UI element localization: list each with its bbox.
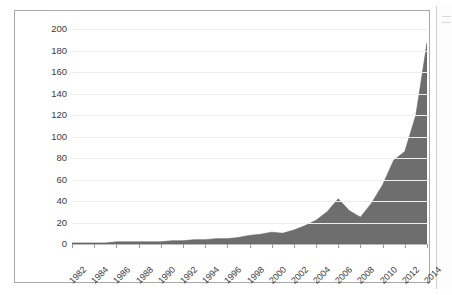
y-axis-tick-label: 140 — [27, 89, 67, 99]
x-axis-tick-mark — [294, 244, 295, 248]
x-axis-tick-label: 1990 — [156, 265, 177, 286]
x-axis-tick-label: 2008 — [356, 265, 377, 286]
x-axis-tick-label: 2012 — [401, 265, 422, 286]
x-axis-tick-mark — [405, 244, 406, 248]
chart-figure: 1982198419861988199019921994199619982000… — [0, 0, 452, 295]
y-axis-tick-label: 40 — [27, 196, 67, 206]
gridline — [72, 137, 427, 138]
y-axis-tick-label: 60 — [27, 175, 67, 185]
gridline — [72, 29, 427, 30]
gridline — [72, 158, 427, 159]
edge-text-line — [442, 16, 451, 17]
gridline — [72, 201, 427, 202]
adjacent-panel-edge — [436, 6, 452, 289]
y-axis-tick-label: 100 — [27, 132, 67, 142]
y-axis-tick-label: 180 — [27, 46, 67, 56]
x-axis: 1982198419861988199019921994199619982000… — [72, 244, 427, 294]
x-axis-tick-label: 1998 — [245, 265, 266, 286]
y-axis-tick-label: 160 — [27, 67, 67, 77]
x-axis-tick-mark — [72, 244, 73, 248]
y-axis-tick-label: 80 — [27, 153, 67, 163]
x-axis-tick-mark — [338, 244, 339, 248]
x-axis-tick-mark — [360, 244, 361, 248]
x-axis-tick-mark — [139, 244, 140, 248]
x-axis-tick-mark — [383, 244, 384, 248]
gridline — [72, 223, 427, 224]
gridline — [72, 115, 427, 116]
x-axis-tick-label: 2004 — [312, 265, 333, 286]
y-axis-tick-label: 200 — [27, 24, 67, 34]
x-axis-tick-label: 2002 — [290, 265, 311, 286]
plot-area — [72, 29, 427, 244]
x-axis-tick-mark — [116, 244, 117, 248]
y-axis-tick-label: 120 — [27, 110, 67, 120]
gridline — [72, 180, 427, 181]
x-axis-tick-mark — [94, 244, 95, 248]
x-axis-tick-label: 1994 — [201, 265, 222, 286]
x-axis-tick-mark — [205, 244, 206, 248]
y-axis-tick-label: 20 — [27, 218, 67, 228]
edge-text-line — [442, 22, 451, 23]
x-axis-tick-label: 1982 — [68, 265, 89, 286]
x-axis-tick-mark — [250, 244, 251, 248]
x-axis-tick-mark — [183, 244, 184, 248]
x-axis-tick-label: 1996 — [223, 265, 244, 286]
x-axis-tick-mark — [427, 244, 428, 248]
x-axis-tick-label: 2010 — [378, 265, 399, 286]
y-axis-tick-label: 0 — [27, 239, 67, 249]
x-axis-tick-label: 2000 — [267, 265, 288, 286]
x-axis-tick-mark — [227, 244, 228, 248]
gridline — [72, 72, 427, 73]
x-axis-tick-mark — [161, 244, 162, 248]
x-axis-tick-label: 2006 — [334, 265, 355, 286]
x-axis-tick-mark — [272, 244, 273, 248]
chart-border: 1982198419861988199019921994199619982000… — [14, 10, 430, 283]
gridline — [72, 94, 427, 95]
x-axis-tick-mark — [316, 244, 317, 248]
x-axis-tick-label: 1988 — [134, 265, 155, 286]
gridline — [72, 51, 427, 52]
x-axis-tick-label: 1992 — [179, 265, 200, 286]
x-axis-tick-label: 1986 — [112, 265, 133, 286]
x-axis-tick-label: 1984 — [90, 265, 111, 286]
